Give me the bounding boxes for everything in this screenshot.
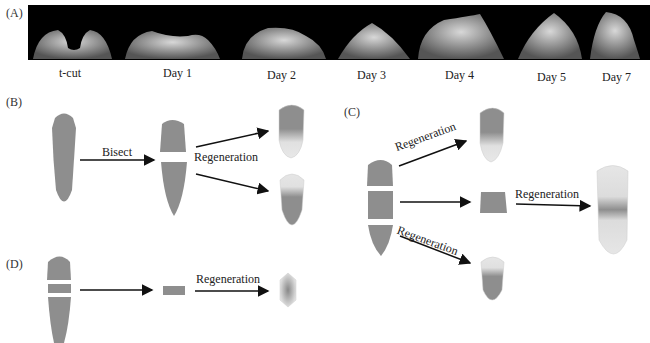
- panel-d-diagram: [47, 257, 296, 343]
- panel-c-label: (C): [344, 105, 360, 120]
- timepoint-label: Day 2: [267, 68, 296, 83]
- panel-b-label: (B): [6, 95, 22, 110]
- regeneration-label: Regeneration: [194, 150, 258, 165]
- diagram-canvas: [0, 0, 650, 343]
- regeneration-arrow-up: [196, 131, 268, 147]
- timepoint-label: Day 1: [163, 66, 192, 81]
- regeneration-arrow-down: [196, 174, 268, 191]
- regenerated-tail-worm: [280, 174, 304, 225]
- timepoint-label: Day 5: [537, 70, 566, 85]
- whole-worm: [52, 114, 76, 202]
- timepoint-label: Day 3: [357, 68, 386, 83]
- timepoint-label: t-cut: [59, 66, 81, 81]
- regenerated-head-worm: [279, 105, 304, 158]
- regeneration-label-middle: Regeneration: [515, 187, 579, 202]
- timepoint-label: Day 4: [445, 68, 474, 83]
- bisect-label: Bisect: [102, 145, 132, 160]
- tail-fragment: [161, 162, 187, 216]
- panel-b-diagram: [52, 105, 304, 225]
- regeneration-label: Regeneration: [196, 272, 260, 287]
- panel-d-label: (D): [6, 257, 23, 272]
- head-fragment: [160, 120, 186, 152]
- timepoint-label: Day 7: [602, 70, 631, 85]
- tissue-photos: [33, 12, 640, 59]
